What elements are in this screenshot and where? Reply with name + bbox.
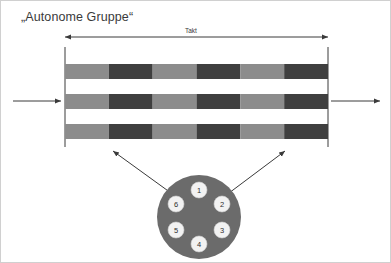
takt-label: Takt [183, 27, 199, 34]
bar-segment-light [240, 124, 284, 139]
bar-segment-dark [197, 64, 241, 79]
group-member-node-2: 2 [214, 196, 230, 212]
node-label: 2 [220, 200, 224, 209]
bar-segment-dark [197, 124, 241, 139]
bar-segment-dark [284, 64, 328, 79]
bar-segment-dark [284, 124, 328, 139]
bar-row-3 [65, 124, 328, 139]
connector-arrow-right [229, 151, 285, 193]
bar-segment-dark [109, 64, 153, 79]
bar-segment-light [153, 124, 197, 139]
bar-row-1 [65, 64, 328, 79]
group-member-node-4: 4 [191, 236, 207, 252]
group-member-node-3: 3 [214, 222, 230, 238]
node-label: 6 [174, 200, 178, 209]
group-member-node-1: 1 [191, 182, 207, 198]
bar-segment-light [65, 94, 109, 109]
bar-segment-dark [109, 124, 153, 139]
node-label: 5 [174, 226, 178, 235]
bar-segment-dark [284, 94, 328, 109]
bar-segment-dark [109, 94, 153, 109]
node-label: 3 [220, 226, 224, 235]
connector-arrow-left [113, 151, 171, 193]
diagram-svg: 123456 [1, 1, 391, 263]
autonomous-group-circle: 123456 [157, 175, 241, 259]
bar-row-2 [65, 94, 328, 109]
bar-segment-dark [197, 94, 241, 109]
bar-rows-group [65, 64, 328, 139]
bar-segment-light [240, 64, 284, 79]
bar-segment-light [240, 94, 284, 109]
node-label: 1 [197, 186, 201, 195]
group-member-node-6: 6 [168, 196, 184, 212]
bar-segment-light [65, 124, 109, 139]
group-member-node-5: 5 [168, 222, 184, 238]
bar-segment-light [65, 64, 109, 79]
diagram-canvas: „Autonome Gruppe“ 123456 Takt [0, 0, 391, 263]
bar-segment-light [153, 94, 197, 109]
node-label: 4 [197, 240, 201, 249]
bar-segment-light [153, 64, 197, 79]
